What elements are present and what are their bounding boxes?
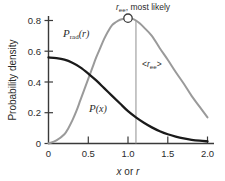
y-axis-tick-labels: 0 0.2 0.4 0.6 0.8 xyxy=(28,15,41,149)
x-tick-label-0-5: 0.5 xyxy=(82,148,95,159)
curve-label-p-rad-arg: (r) xyxy=(79,28,90,40)
annotation-most-likely-rest: , most likely xyxy=(126,2,171,12)
x-tick-label-0: 0 xyxy=(46,148,51,159)
curve-label-p-x-arg: (x) xyxy=(96,103,108,115)
x-axis-title-part2: or xyxy=(122,166,136,177)
y-tick-label-0-4: 0.4 xyxy=(28,77,41,88)
x-tick-label-1-5: 1.5 xyxy=(161,148,174,159)
most-likely-peak-marker xyxy=(124,14,132,22)
y-tick-label-0-2: 0.2 xyxy=(28,107,41,118)
x-axis-tick-labels: 0 0.5 1.0 1.5 2.0 xyxy=(46,148,214,159)
curve-label-p-x: P(x) xyxy=(88,102,108,115)
curve-p-x xyxy=(49,57,208,141)
annotation-most-likely: ree, most likely xyxy=(116,2,171,13)
curve-label-p-rad: Prad(r) xyxy=(62,27,90,41)
plot-canvas: 0 0.2 0.4 0.6 0.8 0 0.5 1.0 1.5 2.0 ree,… xyxy=(0,0,225,181)
y-axis-title: Probability density xyxy=(7,39,18,120)
y-tick-label-0-8: 0.8 xyxy=(28,15,41,26)
x-tick-label-2-0: 2.0 xyxy=(201,148,214,159)
x-axis-title-part3: r xyxy=(136,166,140,177)
x-axis-title: x or r xyxy=(116,166,140,177)
y-tick-label-0: 0 xyxy=(36,138,41,149)
probability-density-figure: 0 0.2 0.4 0.6 0.8 0 0.5 1.0 1.5 2.0 ree,… xyxy=(0,0,225,181)
annotation-mean-ree: <ree> xyxy=(142,59,162,70)
y-tick-label-0-6: 0.6 xyxy=(28,46,41,57)
x-tick-label-1-0: 1.0 xyxy=(121,148,134,159)
annotation-mean-close: > xyxy=(157,59,162,69)
